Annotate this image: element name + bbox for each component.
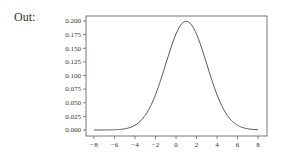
pdf-line [94,21,258,130]
x-tick-label: −6 [111,141,119,149]
y-tick-label: 0.075 [65,85,81,93]
y-tick-label: 0.125 [65,58,81,66]
x-tick-label: 8 [256,141,260,149]
y-tick-label: 0.200 [65,17,81,25]
y-tick-label: 0.175 [65,31,81,39]
x-tick-label: 0 [174,141,178,149]
line-chart: 0.0000.0250.0500.0750.1000.1250.1500.175… [0,0,284,155]
y-tick-label: 0.150 [65,45,81,53]
x-tick-label: −2 [152,141,160,149]
y-tick-label: 0.025 [65,113,81,121]
x-tick-label: −8 [90,141,98,149]
x-tick-label: 4 [215,141,219,149]
x-tick-label: −4 [131,141,139,149]
x-tick-label: 2 [195,141,199,149]
y-tick-label: 0.050 [65,99,81,107]
y-tick-label: 0.100 [65,72,81,80]
x-tick-label: 6 [236,141,240,149]
y-tick-label: 0.000 [65,126,81,134]
